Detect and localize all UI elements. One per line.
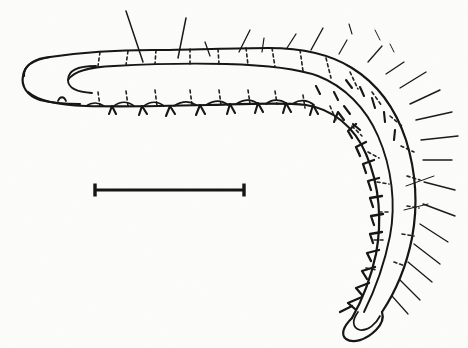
paper-grain <box>0 0 468 348</box>
segment-line <box>155 50 156 64</box>
spine <box>394 130 395 140</box>
larva-illustration-svg <box>0 0 468 348</box>
figure-root <box>0 0 468 348</box>
spine <box>384 112 385 122</box>
segment-line <box>218 49 219 64</box>
